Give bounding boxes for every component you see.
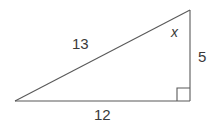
right-triangle-figure: 13 12 5 x <box>0 0 217 127</box>
hypotenuse-label: 13 <box>72 36 89 51</box>
vertical-leg-label: 5 <box>198 49 206 64</box>
right-angle-square-icon <box>177 88 190 101</box>
hypotenuse-line <box>15 10 190 101</box>
base-label: 12 <box>94 107 111 122</box>
angle-label-x: x <box>171 25 178 40</box>
